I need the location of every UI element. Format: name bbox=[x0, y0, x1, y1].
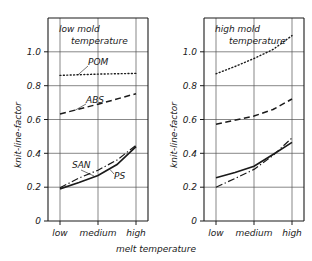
annotation-line1-left: low mold bbox=[59, 24, 100, 34]
series-label-san-left: SAN bbox=[72, 160, 91, 170]
xtick-label-medium: medium bbox=[80, 228, 117, 238]
y-tick-labels-left: 0 0.2 0.4 0.6 0.8 1.0 bbox=[27, 47, 42, 226]
ytick-label-0: 0 bbox=[191, 216, 197, 226]
ytick-label-0: 0 bbox=[35, 216, 41, 226]
ytick-label-0.6: 0.6 bbox=[27, 115, 42, 125]
xtick-label-medium: medium bbox=[236, 228, 273, 238]
ytick-label-1.0: 1.0 bbox=[183, 47, 198, 57]
y-axis-title-left: knit-line-factor bbox=[13, 101, 23, 168]
chart-svg: 0 0.2 0.4 0.6 0.8 1.0 low medium high kn… bbox=[0, 0, 312, 261]
panel-low-mold-temperature: 0 0.2 0.4 0.6 0.8 1.0 low medium high kn… bbox=[13, 18, 148, 238]
xtick-label-low: low bbox=[208, 228, 224, 238]
x-ticks-right bbox=[216, 221, 292, 225]
series-label-abs-left: ABS bbox=[85, 95, 104, 105]
annotation-line2-right: temperature bbox=[229, 36, 286, 46]
xtick-label-high: high bbox=[126, 228, 146, 238]
knit-line-factor-figure: 0 0.2 0.4 0.6 0.8 1.0 low medium high kn… bbox=[0, 0, 312, 261]
series-label-ps-left: PS bbox=[114, 171, 125, 181]
xtick-label-low: low bbox=[52, 228, 68, 238]
y-ticks-right bbox=[200, 52, 204, 221]
x-tick-labels-left: low medium high bbox=[52, 228, 146, 238]
panel-high-mold-temperature: 0 0.2 0.4 0.6 0.8 1.0 low medium high kn… bbox=[169, 18, 304, 238]
ytick-label-0.8: 0.8 bbox=[183, 81, 198, 91]
ytick-label-0.4: 0.4 bbox=[27, 149, 42, 159]
ytick-label-0.6: 0.6 bbox=[183, 115, 198, 125]
annotation-line2-left: temperature bbox=[71, 36, 128, 46]
x-ticks-left bbox=[60, 221, 136, 225]
ytick-label-0.8: 0.8 bbox=[27, 81, 42, 91]
xtick-label-high: high bbox=[282, 228, 302, 238]
series-label-pom-left: POM bbox=[88, 57, 109, 67]
y-ticks-left bbox=[44, 52, 48, 221]
ytick-label-0.2: 0.2 bbox=[27, 182, 42, 192]
ytick-label-0.4: 0.4 bbox=[183, 149, 198, 159]
y-axis-title-right: knit-line-factor bbox=[169, 101, 179, 168]
ytick-label-1.0: 1.0 bbox=[27, 47, 42, 57]
y-tick-labels-right: 0 0.2 0.4 0.6 0.8 1.0 bbox=[183, 47, 198, 226]
annotation-line1-right: high mold bbox=[215, 24, 260, 34]
x-tick-labels-right: low medium high bbox=[208, 228, 302, 238]
x-axis-title: melt temperature bbox=[116, 244, 196, 254]
ytick-label-0.2: 0.2 bbox=[183, 182, 198, 192]
